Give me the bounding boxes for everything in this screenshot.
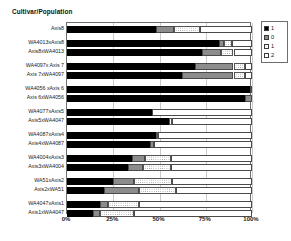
category-label: WA51xAxis2 bbox=[4, 177, 66, 184]
bar-segment bbox=[104, 187, 139, 194]
bar-segment bbox=[234, 49, 253, 56]
legend-swatch-icon bbox=[264, 53, 269, 58]
legend-item[interactable]: 1 bbox=[264, 42, 285, 50]
bar-segment bbox=[67, 201, 100, 208]
category-label: WA4056 xAxis 6 bbox=[4, 85, 66, 92]
category-label: Axis2xWA51 bbox=[4, 186, 66, 193]
bar-segment bbox=[67, 118, 169, 125]
bar-segment bbox=[67, 26, 156, 33]
x-tick-label: 25% bbox=[106, 216, 118, 222]
bar-segment bbox=[245, 72, 252, 79]
category-label: WA4097x Axis 7 bbox=[4, 62, 66, 69]
bar-row bbox=[67, 178, 250, 185]
legend-swatch-icon bbox=[264, 35, 269, 40]
bar-segment bbox=[154, 141, 252, 148]
bar-segment bbox=[67, 141, 150, 148]
category-label: Axis8 bbox=[4, 25, 66, 32]
bar-segment bbox=[108, 201, 139, 208]
category-label: Axis5xWA4047 bbox=[4, 117, 66, 124]
bar-segment bbox=[128, 164, 143, 171]
legend-label: 1 bbox=[271, 43, 274, 49]
category-label: WA4013xAxis8 bbox=[4, 39, 66, 46]
bar-segment bbox=[245, 63, 252, 70]
bar-segment bbox=[67, 187, 104, 194]
bar-segment bbox=[139, 201, 252, 208]
bar-row bbox=[67, 72, 250, 79]
x-tick-label: 0% bbox=[62, 216, 71, 222]
category-label: WA4077xAxis5 bbox=[4, 108, 66, 115]
x-tick-label: 100% bbox=[243, 216, 258, 222]
bar-segment bbox=[234, 63, 245, 70]
bar-segment bbox=[172, 178, 252, 185]
bar-segment bbox=[156, 26, 175, 33]
bar-row bbox=[67, 201, 250, 208]
bar-row bbox=[67, 26, 250, 33]
gridline bbox=[252, 23, 253, 213]
bar-segment bbox=[67, 132, 156, 139]
x-tick-label: 75% bbox=[199, 216, 211, 222]
bar-segment bbox=[67, 155, 132, 162]
bar-segment bbox=[67, 40, 219, 47]
legend-item[interactable]: 1 bbox=[264, 24, 285, 32]
category-label: Axis 6xWA4056 bbox=[4, 94, 66, 101]
bar-segment bbox=[202, 49, 221, 56]
category-label: Axis3xWA4004 bbox=[4, 163, 66, 170]
x-axis-tick-labels: 0%25%50%75%100% bbox=[66, 216, 251, 228]
bar-segment bbox=[195, 63, 234, 70]
legend-item[interactable]: 0 bbox=[264, 33, 285, 41]
bar-segment bbox=[113, 178, 133, 185]
bar-segment bbox=[67, 86, 250, 93]
legend-swatch-icon bbox=[264, 26, 269, 31]
bar-segment bbox=[145, 155, 171, 162]
bar-segment bbox=[174, 26, 200, 33]
bar-segment bbox=[172, 118, 252, 125]
bar-row bbox=[67, 86, 250, 93]
legend-label: 1 bbox=[271, 25, 274, 31]
legend-swatch-icon bbox=[264, 44, 269, 49]
bar-segment bbox=[221, 49, 234, 56]
bar-segment bbox=[67, 72, 182, 79]
bar-row bbox=[67, 109, 250, 116]
legend-item[interactable]: 2 bbox=[264, 51, 285, 59]
bar-row bbox=[67, 40, 250, 47]
category-label: WA4087xAxis4 bbox=[4, 131, 66, 138]
bar-segment bbox=[67, 63, 195, 70]
bar-row bbox=[67, 132, 250, 139]
bar-segment bbox=[139, 187, 176, 194]
y-axis-title: Cultivar/Population bbox=[12, 8, 72, 15]
bar-segment bbox=[224, 40, 231, 47]
category-label: Axis4xWA4087 bbox=[4, 140, 66, 147]
legend: 1012 bbox=[261, 21, 288, 63]
bar-segment bbox=[67, 109, 152, 116]
bar-row bbox=[67, 155, 250, 162]
bar-segment bbox=[67, 49, 202, 56]
bar-row bbox=[67, 63, 250, 70]
bar-segment bbox=[171, 164, 252, 171]
plot-area bbox=[66, 22, 251, 214]
bar-segment bbox=[152, 109, 252, 116]
stacked-bar-chart: Cultivar/Population Axis8WA4013xAxis8Axi… bbox=[0, 0, 291, 241]
bar-segment bbox=[67, 178, 113, 185]
bar-segment bbox=[132, 155, 145, 162]
bar-row bbox=[67, 95, 250, 102]
legend-label: 2 bbox=[271, 52, 274, 58]
bar-row bbox=[67, 164, 250, 171]
bar-segment bbox=[158, 132, 252, 139]
bar-row bbox=[67, 49, 250, 56]
bar-segment bbox=[134, 178, 173, 185]
bar-segment bbox=[143, 164, 171, 171]
bar-row bbox=[67, 141, 250, 148]
bar-segment bbox=[182, 72, 234, 79]
bar-segment bbox=[171, 155, 252, 162]
bar-segment bbox=[234, 72, 245, 79]
bar-segment bbox=[176, 187, 252, 194]
category-label: WA4004xAxis3 bbox=[4, 154, 66, 161]
bar-segment bbox=[67, 95, 245, 102]
bar-segment bbox=[250, 86, 252, 93]
category-label: Axis 7xWA4097 bbox=[4, 71, 66, 78]
category-label-column: Axis8WA4013xAxis8Axis8xWA4013WA4097x Axi… bbox=[0, 22, 66, 214]
bar-segment bbox=[232, 40, 252, 47]
bar-segment bbox=[67, 164, 128, 171]
bar-row bbox=[67, 118, 250, 125]
category-label: Axis8xWA4013 bbox=[4, 48, 66, 55]
